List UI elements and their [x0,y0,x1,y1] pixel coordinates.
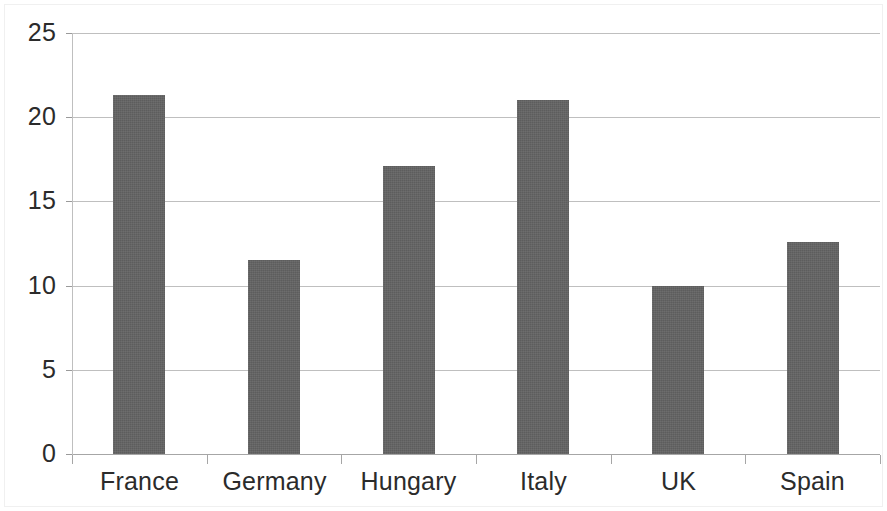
y-axis-tick-label: 15 [4,188,56,213]
y-axis-tick-label: 20 [4,104,56,129]
gridline [72,286,880,287]
bar-chart: 0510152025 FranceGermanyHungaryItalyUKSp… [0,0,887,511]
x-axis-tick [207,455,208,464]
y-axis-tick-label: 10 [4,273,56,298]
bar [113,95,165,454]
bar [383,166,435,454]
x-axis-tick-label: Hungary [341,466,476,496]
gridline [72,370,880,371]
x-axis-tick [880,455,881,464]
y-axis-line [72,33,73,455]
bar [652,286,704,454]
x-axis-tick [611,455,612,464]
gridline [72,201,880,202]
x-axis-tick [72,455,73,464]
bar [787,242,839,454]
x-axis-tick [476,455,477,464]
x-axis-tick [341,455,342,464]
bar [517,100,569,454]
x-axis-tick-label: Italy [476,466,611,496]
gridline [72,33,880,34]
x-axis-tick-label: Spain [745,466,880,496]
x-axis-tick-label: France [72,466,207,496]
y-axis-tick-label: 25 [4,20,56,45]
gridline [72,117,880,118]
x-axis-tick-label: UK [611,466,746,496]
x-axis-tick-label: Germany [207,466,342,496]
bar [248,260,300,454]
y-axis-tick-label: 0 [4,441,56,466]
x-axis-tick [745,455,746,464]
y-axis-tick-label: 5 [4,357,56,382]
